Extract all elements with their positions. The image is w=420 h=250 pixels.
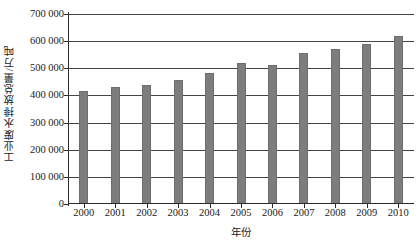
y-axis-tick-label: 500 000 [30, 63, 64, 74]
y-axis-tick-mark [64, 41, 68, 42]
x-axis-tick-label: 2002 [136, 208, 157, 219]
bar [111, 87, 120, 204]
x-axis-tick-label: 2007 [293, 208, 314, 219]
bar [142, 85, 151, 204]
bar [79, 91, 88, 204]
y-axis-tick-mark [64, 68, 68, 69]
y-axis-tick-label: 700 000 [30, 9, 64, 20]
x-axis-title: 年份 [68, 228, 414, 239]
x-axis-tick-label: 2009 [356, 208, 377, 219]
x-axis-tick-label: 2001 [105, 208, 126, 219]
bar-chart: 工业废水排放总量/万吨 0100 000200 000300 000400 00… [0, 0, 420, 250]
bar [362, 44, 371, 204]
y-axis-tick-mark [64, 123, 68, 124]
bar [331, 49, 340, 204]
y-axis-tick-label: 300 000 [30, 117, 64, 128]
y-axis-tick-label: 600 000 [30, 36, 64, 47]
y-axis-tick-mark [64, 204, 68, 205]
y-axis-tick-label: 100 000 [30, 172, 64, 183]
bar [299, 53, 308, 204]
y-axis-tick-mark [64, 95, 68, 96]
bar [237, 63, 246, 204]
y-axis-tick-labels: 0100 000200 000300 000400 000500 000600 … [18, 14, 68, 204]
bar [394, 36, 403, 204]
plot-area [68, 14, 414, 204]
x-axis-tick-label: 2005 [231, 208, 252, 219]
y-axis-title: 工业废水排放总量/万吨 [0, 0, 20, 208]
x-axis-tick-label: 2000 [73, 208, 94, 219]
x-axis-tick-label: 2003 [168, 208, 189, 219]
x-axis-tick-label: 2004 [199, 208, 220, 219]
x-axis-tick-label: 2006 [262, 208, 283, 219]
bars-layer [68, 14, 414, 204]
x-axis-tick-label: 2008 [325, 208, 346, 219]
y-axis-title-text: 工业废水排放总量/万吨 [5, 45, 16, 162]
x-axis-tick-labels: 2000200120022003200420052006200720082009… [68, 208, 414, 224]
y-axis-tick-mark [64, 177, 68, 178]
x-axis-tick-label: 2010 [388, 208, 409, 219]
bar [174, 80, 183, 204]
bar [205, 73, 214, 204]
y-axis-tick-label: 200 000 [30, 144, 64, 155]
y-axis-tick-mark [64, 14, 68, 15]
y-axis-tick-label: 400 000 [30, 90, 64, 101]
bar [268, 65, 277, 204]
y-axis-tick-mark [64, 150, 68, 151]
